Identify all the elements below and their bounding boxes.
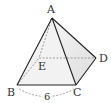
- label-a: A: [46, 3, 56, 16]
- label-b: B: [7, 86, 15, 99]
- pyramid-diagram: A B C D E 6: [0, 0, 111, 103]
- measure-label: 6: [44, 91, 50, 102]
- label-d: D: [99, 52, 108, 65]
- label-e: E: [38, 60, 46, 73]
- label-c: C: [73, 86, 81, 99]
